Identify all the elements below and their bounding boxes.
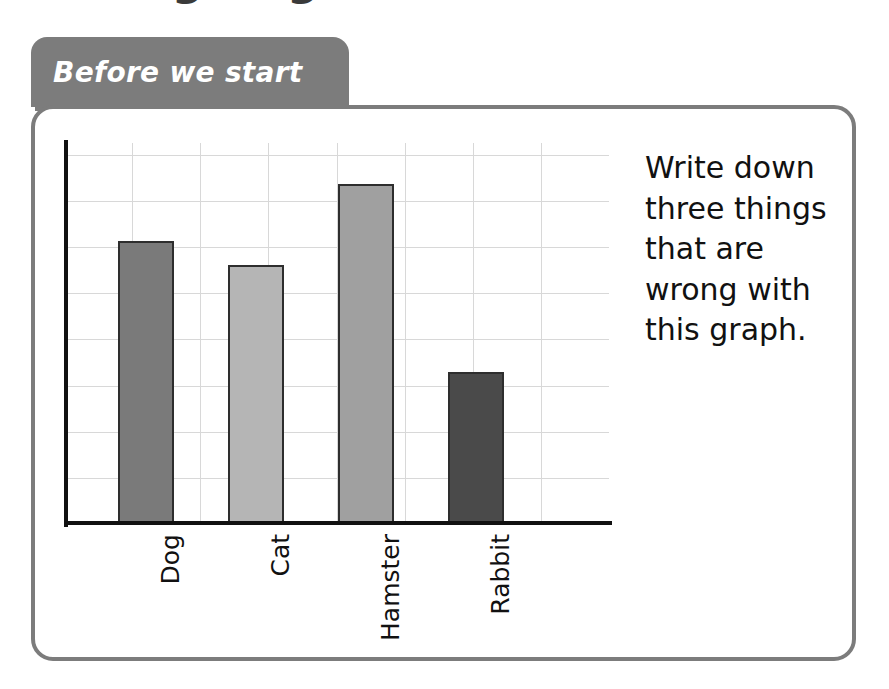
plot-area [64,143,609,524]
section-tab: Before we start [31,37,349,107]
y-axis-line [64,140,68,527]
x-tick-label-dog: Dog [156,534,185,584]
gridline-vertical [541,143,542,524]
clipped-page-title: ng ... g [0,0,889,16]
x-tick-label-cat: Cat [266,534,295,577]
gridline-vertical [405,143,406,524]
x-tick-label-rabbit: Rabbit [486,534,515,615]
bar-cat [228,265,284,524]
bar-rabbit [448,372,504,524]
bar-hamster [338,184,394,524]
instruction-text: Write down three things that are wrong w… [645,148,845,351]
bar-dog [118,241,174,524]
gridline-vertical [200,143,201,524]
x-tick-label-hamster: Hamster [376,534,405,641]
clipped-page-title-text: ng ... g [140,0,319,5]
x-axis-line [64,521,612,525]
section-tab-label: Before we start [31,56,303,89]
bar-chart [64,143,609,524]
